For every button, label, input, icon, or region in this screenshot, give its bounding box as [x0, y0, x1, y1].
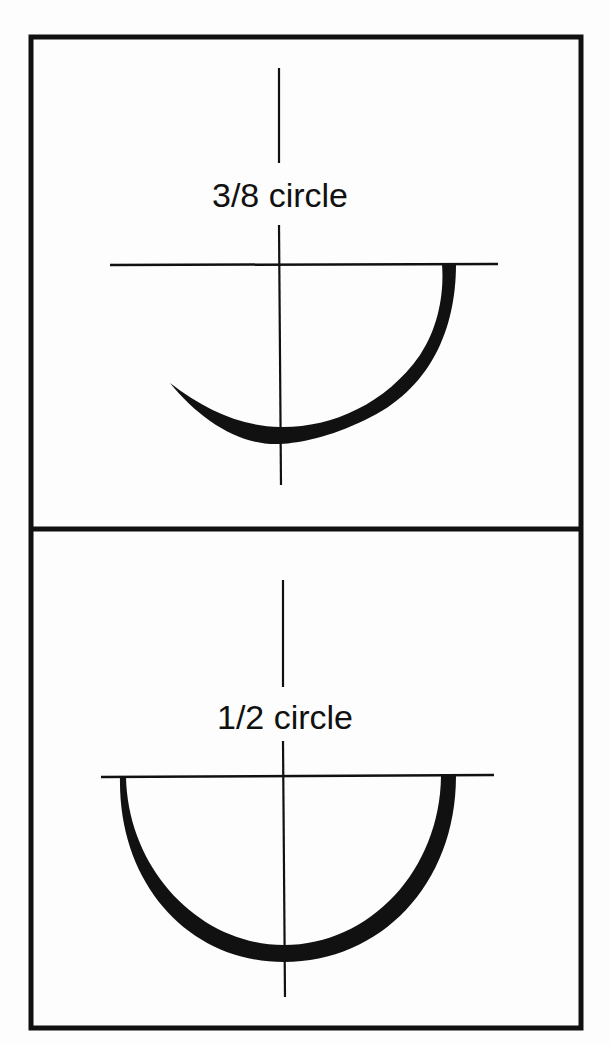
panel-three-eighths-circle: 3/8 circle — [110, 68, 498, 485]
needle-arc-icon — [170, 264, 456, 444]
horizontal-axis — [110, 264, 498, 265]
horizontal-axis — [101, 775, 494, 777]
panel-half-circle: 1/2 circle — [101, 580, 494, 997]
needle-curvature-diagram: 3/8 circle 1/2 circle — [0, 0, 610, 1045]
needle-arc-icon — [120, 776, 456, 962]
panel-label: 1/2 circle — [217, 698, 353, 736]
panel-label: 3/8 circle — [212, 176, 348, 214]
